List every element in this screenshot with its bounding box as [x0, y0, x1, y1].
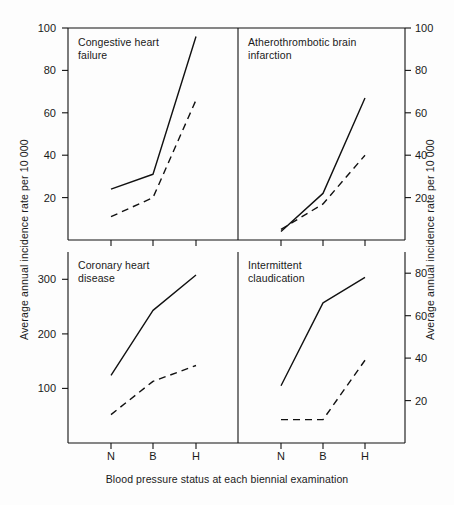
series-line-coronary-heart-disease-solid — [111, 275, 196, 375]
panel-title-congestive-heart-failure: Congestive heart failure — [78, 36, 159, 62]
ytick-bottom-left-300: 300 — [26, 274, 56, 285]
xtick-left-b: B — [143, 450, 163, 462]
ytick-top-left-20: 20 — [26, 193, 56, 204]
y-ticks-top-right — [405, 28, 411, 198]
x-ticks-top-row — [111, 240, 365, 246]
plot-area — [0, 0, 454, 505]
ytick-top-right-60: 60 — [415, 108, 445, 119]
series-line-intermittent-claudication-solid — [281, 277, 365, 385]
series-line-coronary-heart-disease-dashed — [111, 366, 196, 415]
ytick-top-right-80: 80 — [415, 65, 445, 76]
xtick-left-n: N — [101, 450, 121, 462]
xtick-right-b: B — [313, 450, 333, 462]
ytick-top-left-60: 60 — [26, 108, 56, 119]
panel-title-coronary-heart-disease: Coronary heart disease — [78, 259, 149, 285]
ytick-top-left-40: 40 — [26, 150, 56, 161]
figure-canvas: Average annual incidence rate per 10 000… — [0, 0, 454, 505]
y-ticks-bottom-right — [405, 273, 411, 400]
ytick-top-left-100: 100 — [26, 23, 56, 34]
xtick-right-h: H — [355, 450, 375, 462]
x-ticks-bottom-row — [111, 443, 365, 449]
ytick-bottom-right-40: 40 — [415, 353, 445, 364]
ytick-bottom-right-20: 20 — [415, 396, 445, 407]
panel-title-atherothrombotic-brain-infarction: Atherothrombotic brain infarction — [248, 36, 356, 62]
panel-series-congestive-heart-failure — [111, 36, 196, 216]
panel-series-intermittent-claudication — [281, 277, 365, 419]
ytick-top-left-80: 80 — [26, 65, 56, 76]
ytick-bottom-left-200: 200 — [26, 329, 56, 340]
xtick-right-n: N — [271, 450, 291, 462]
series-line-atherothrombotic-brain-infarction-solid — [281, 98, 365, 232]
series-line-congestive-heart-failure-dashed — [111, 100, 196, 217]
panel-title-intermittent-claudication: Intermittent claudication — [248, 259, 305, 285]
ytick-bottom-right-60: 60 — [415, 311, 445, 322]
panel-series-atherothrombotic-brain-infarction — [281, 98, 365, 232]
xtick-left-h: H — [186, 450, 206, 462]
ytick-top-right-40: 40 — [415, 150, 445, 161]
ytick-top-right-100: 100 — [415, 23, 445, 34]
y-ticks-top-left — [62, 28, 68, 198]
ytick-bottom-right-80: 80 — [415, 268, 445, 279]
series-line-intermittent-claudication-dashed — [281, 360, 365, 419]
ytick-bottom-left-100: 100 — [26, 383, 56, 394]
panel-series-coronary-heart-disease — [111, 275, 196, 415]
y-ticks-bottom-left — [62, 279, 68, 388]
ytick-top-right-20: 20 — [415, 193, 445, 204]
